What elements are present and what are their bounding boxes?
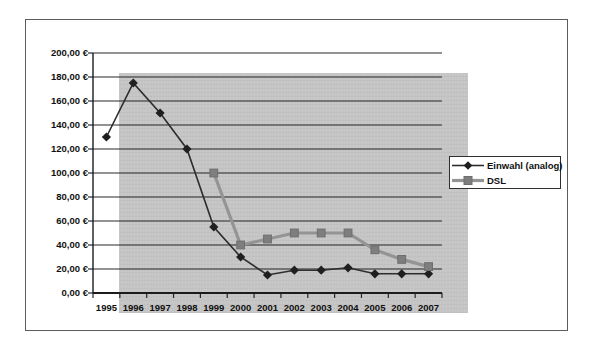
legend-label-dsl: DSL [487, 175, 506, 186]
x-axis-tick-label: 1997 [145, 302, 175, 313]
dsl-marker [264, 235, 272, 243]
dsl-marker [344, 229, 352, 237]
dsl-marker [425, 263, 433, 271]
x-axis-tick-label: 2007 [414, 302, 444, 313]
y-axis-tick-label: 100,00 € [16, 167, 88, 179]
einwahl-analog-marker [397, 269, 406, 278]
y-axis-tick-label: 200,00 € [16, 47, 88, 59]
x-axis-tick-label: 1999 [199, 302, 229, 313]
y-axis-tick-label: 160,00 € [16, 95, 88, 107]
x-axis-tick-label: 2003 [306, 302, 336, 313]
dsl-marker [398, 256, 406, 264]
dsl-marker [210, 169, 218, 177]
dsl-line [214, 173, 429, 267]
x-axis-tick-label: 2000 [226, 302, 256, 313]
einwahl-analog-marker [343, 263, 352, 272]
legend-label-einwahl-analog: Einwahl (analog) [487, 160, 562, 171]
dsl-marker [237, 241, 245, 249]
y-axis-tick-label: 60,00 € [16, 215, 88, 227]
y-axis-tick-label: 140,00 € [16, 119, 88, 131]
x-axis-tick-label: 2005 [360, 302, 390, 313]
einwahl-analog-marker [102, 132, 111, 141]
screenshot-root: 0,00 €20,00 €40,00 €60,00 €80,00 €100,00… [0, 0, 595, 351]
dsl-marker [317, 229, 325, 237]
legend-item-dsl: DSL [452, 173, 558, 187]
y-axis-tick-label: 40,00 € [16, 239, 88, 251]
y-axis-tick-label: 80,00 € [16, 191, 88, 203]
legend: Einwahl (analog) DSL [449, 156, 561, 189]
einwahl-analog-marker [263, 270, 272, 279]
einwahl-analog-line [106, 83, 428, 275]
x-axis-tick-label: 1995 [91, 302, 121, 313]
x-axis-tick-label: 2006 [387, 302, 417, 313]
legend-diamond-marker-icon [452, 160, 484, 171]
y-axis-tick-label: 180,00 € [16, 71, 88, 83]
legend-square-marker-icon [452, 175, 484, 186]
y-axis-tick-label: 20,00 € [16, 263, 88, 275]
x-axis-tick-label: 1996 [118, 302, 148, 313]
x-axis-tick-label: 1998 [172, 302, 202, 313]
einwahl-analog-marker [317, 266, 326, 275]
legend-item-einwahl-analog: Einwahl (analog) [452, 158, 558, 172]
y-axis-tick-label: 0,00 € [16, 287, 88, 299]
dsl-marker [290, 229, 298, 237]
dsl-marker [371, 246, 379, 254]
einwahl-analog-marker [290, 266, 299, 275]
x-axis-tick-label: 2002 [279, 302, 309, 313]
einwahl-analog-marker [370, 269, 379, 278]
x-axis-tick-label: 2004 [333, 302, 363, 313]
x-axis-tick-label: 2001 [253, 302, 283, 313]
y-axis-tick-label: 120,00 € [16, 143, 88, 155]
